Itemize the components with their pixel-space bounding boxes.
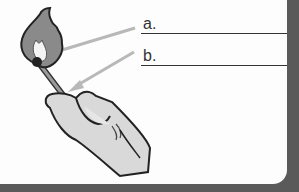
worksheet-card: a. b.: [0, 0, 287, 184]
arrow-a-icon: [62, 28, 135, 50]
label-b-row: b.: [141, 46, 287, 66]
label-a-marker: a.: [143, 16, 156, 32]
arrow-b-icon: [68, 52, 134, 92]
hand-icon: [46, 92, 150, 176]
label-a-answer-line[interactable]: [141, 33, 287, 35]
flame-icon: [21, 8, 62, 67]
label-b-marker: b.: [143, 48, 156, 64]
label-b-answer-line[interactable]: [141, 65, 287, 67]
label-a-row: a.: [141, 14, 287, 34]
